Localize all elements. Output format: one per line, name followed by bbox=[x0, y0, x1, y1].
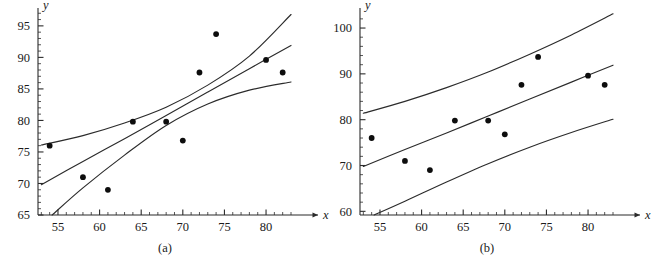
panel-b-caption: (b) bbox=[480, 241, 495, 255]
y-tick-label: 75 bbox=[18, 145, 31, 159]
x-axis-arrowhead bbox=[313, 212, 319, 217]
data-point bbox=[502, 131, 508, 137]
data-point bbox=[519, 82, 525, 88]
y-tick-label: 95 bbox=[18, 19, 31, 33]
panel-a-x-axis-label: x bbox=[322, 208, 329, 222]
data-point bbox=[80, 174, 86, 180]
fitted-regression-line bbox=[41, 45, 291, 184]
interval-band-curve bbox=[52, 82, 291, 215]
y-tick-label: 80 bbox=[340, 113, 353, 127]
data-point bbox=[535, 54, 541, 60]
y-tick-label: 80 bbox=[18, 114, 31, 128]
panel-b-y-axis-label: y bbox=[363, 0, 371, 12]
y-tick-label: 65 bbox=[18, 208, 31, 222]
data-point bbox=[47, 143, 53, 149]
panel-a-caption: (a) bbox=[158, 241, 172, 255]
panel-a-curves bbox=[41, 15, 291, 215]
data-point bbox=[585, 73, 591, 79]
data-point bbox=[402, 158, 408, 164]
data-point bbox=[602, 82, 608, 88]
panel-b-axes bbox=[360, 8, 640, 218]
x-tick-label: 55 bbox=[374, 220, 387, 234]
y-tick-label: 100 bbox=[333, 21, 352, 35]
interval-band-curve bbox=[363, 14, 613, 113]
data-point bbox=[130, 119, 136, 125]
panel-a-tick-labels: 55606570758065707580859095 bbox=[18, 19, 273, 234]
x-tick-label: 70 bbox=[499, 220, 512, 234]
x-tick-label: 70 bbox=[177, 220, 190, 234]
panel-a: 55606570758065707580859095 x y (a) bbox=[18, 0, 330, 255]
x-tick-label: 75 bbox=[540, 220, 553, 234]
fitted-regression-line bbox=[363, 65, 613, 166]
data-point bbox=[280, 70, 286, 76]
panel-b-curves bbox=[363, 14, 613, 215]
y-tick-label: 60 bbox=[340, 205, 353, 219]
x-tick-label: 80 bbox=[582, 220, 595, 234]
x-tick-label: 55 bbox=[52, 220, 65, 234]
y-tick-label: 90 bbox=[340, 67, 353, 81]
data-point bbox=[369, 135, 375, 141]
x-tick-label: 75 bbox=[218, 220, 231, 234]
data-point bbox=[180, 138, 186, 144]
interval-band-curve bbox=[374, 119, 613, 215]
panel-b: 55606570758060708090100 x y (b) bbox=[333, 0, 651, 255]
y-tick-label: 85 bbox=[18, 82, 31, 96]
data-point bbox=[263, 57, 269, 63]
regression-bands-figure: 55606570758065707580859095 x y (a) 55606… bbox=[0, 0, 657, 262]
data-point bbox=[197, 70, 203, 76]
panel-a-ticks bbox=[38, 13, 291, 215]
data-point bbox=[427, 167, 433, 173]
data-point bbox=[213, 31, 219, 37]
x-tick-label: 65 bbox=[135, 220, 148, 234]
x-tick-label: 60 bbox=[93, 220, 106, 234]
x-tick-label: 65 bbox=[457, 220, 470, 234]
x-axis-arrowhead bbox=[635, 212, 641, 217]
y-tick-label: 70 bbox=[340, 159, 353, 173]
panel-a-axes bbox=[38, 8, 318, 218]
data-point bbox=[452, 118, 458, 124]
data-point bbox=[485, 118, 491, 124]
panel-b-x-axis-label: x bbox=[644, 208, 651, 222]
panel-b-tick-labels: 55606570758060708090100 bbox=[333, 21, 594, 234]
x-tick-label: 60 bbox=[415, 220, 428, 234]
y-tick-label: 90 bbox=[18, 51, 31, 65]
y-tick-label: 70 bbox=[18, 177, 31, 191]
data-point bbox=[105, 187, 111, 193]
figure-canvas: 55606570758065707580859095 x y (a) 55606… bbox=[0, 0, 657, 262]
x-tick-label: 80 bbox=[260, 220, 273, 234]
panel-a-y-axis-label: y bbox=[41, 0, 49, 12]
data-point bbox=[163, 119, 169, 125]
